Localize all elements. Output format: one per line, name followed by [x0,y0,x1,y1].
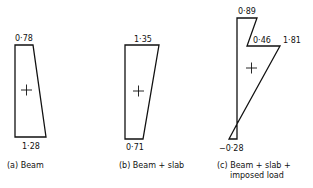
diagram-b: 1·35 0·71 (b) Beam + slab [119,35,184,170]
diagram-a: 0·78 1·28 (a) Beam [7,34,46,170]
mid-left-value-c: 0·46 [253,36,271,45]
top-value-a: 0·78 [15,34,33,43]
stress-block-b [125,45,159,139]
caption-c-line2: imposed load [230,171,284,180]
diagram-c: 0·89 0·46 1·81 −0·28 (c) Beam + slab + i… [217,7,301,180]
stress-block-a [15,45,46,137]
caption-a: (a) Beam [7,161,44,170]
top-value-b: 1·35 [134,35,152,44]
top-value-c: 0·89 [238,7,256,16]
caption-c-line1: (c) Beam + slab + [217,161,291,170]
stress-block-c [237,18,280,124]
bottom-value-c: −0·28 [219,144,244,153]
stress-diagrams: 0·78 1·28 (a) Beam 1·35 0·71 (b) Beam + … [0,0,313,188]
mid-right-value-c: 1·81 [283,36,301,45]
tension-triangle-c [229,124,237,139]
bottom-value-b: 0·71 [126,143,144,152]
caption-b: (b) Beam + slab [119,161,184,170]
bottom-value-a: 1·28 [22,142,40,151]
